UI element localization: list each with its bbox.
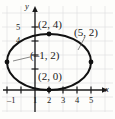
ellipse-graph-figure: (2, 4) (5, 2) (–1, 2) (2, 0) –1 1 2 3 4 … bbox=[0, 0, 115, 119]
point-label-bottom: (2, 0) bbox=[38, 71, 62, 82]
y-axis-label: y bbox=[25, 2, 29, 11]
y-axis-arrow bbox=[32, 6, 38, 12]
point-label-left: (–1, 2) bbox=[30, 50, 59, 61]
point-bottom bbox=[47, 88, 52, 93]
x-tick-label-2: 2 bbox=[47, 96, 51, 105]
x-tick-label-5: 5 bbox=[89, 96, 93, 105]
x-tick-label-minus1: –1 bbox=[7, 96, 16, 105]
point-label-top: (2, 4) bbox=[38, 19, 62, 30]
point-right bbox=[89, 60, 94, 65]
point-top bbox=[47, 32, 52, 37]
x-tick-label-4: 4 bbox=[75, 96, 79, 105]
x-tick-label-1: 1 bbox=[33, 96, 37, 105]
x-axis-label: x bbox=[105, 85, 109, 94]
y-tick-label-4: 4 bbox=[16, 36, 20, 45]
y-tick-label-5: 5 bbox=[16, 23, 20, 32]
point-left bbox=[5, 60, 10, 65]
point-label-right: (5, 2) bbox=[74, 27, 98, 38]
x-tick-label-3: 3 bbox=[61, 96, 65, 105]
